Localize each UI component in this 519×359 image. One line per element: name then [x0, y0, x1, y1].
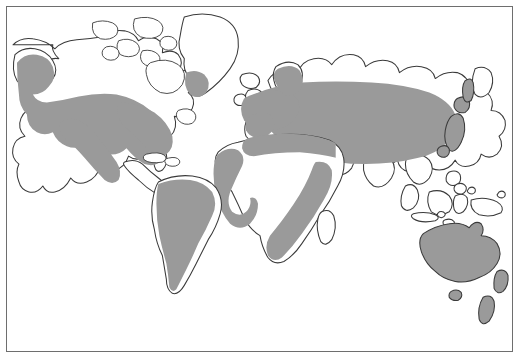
sakhalin	[463, 79, 474, 102]
arctic-island-5	[102, 46, 119, 60]
arctic-island-1	[92, 21, 118, 39]
world-map: .land { fill:#ffffff; stroke:#3a3a3a; st…	[7, 7, 512, 351]
japan-kyushu	[437, 146, 449, 158]
figure-root: .land { fill:#ffffff; stroke:#3a3a3a; st…	[0, 0, 519, 359]
small-island-b	[497, 191, 505, 198]
philippines-mindanao	[454, 183, 466, 194]
small-island-c	[437, 212, 445, 218]
tasmania	[449, 290, 462, 300]
arctic-island-6	[160, 36, 177, 50]
map-frame: .land { fill:#ffffff; stroke:#3a3a3a; st…	[6, 6, 513, 352]
arctic-island-3	[133, 17, 163, 38]
kamchatka	[472, 67, 493, 97]
cuba	[143, 153, 166, 163]
small-island-a	[467, 187, 475, 194]
hispaniola	[165, 157, 180, 166]
